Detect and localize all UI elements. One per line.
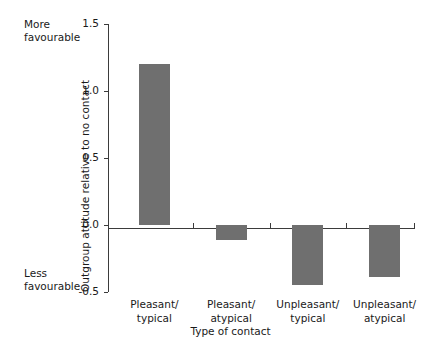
y-axis-tick: 0.0 [104,225,108,226]
y-axis-tick: -0.5 [104,292,108,293]
y-axis-tick: 1.0 [104,91,108,92]
y-axis-tick-label: -0.5 [79,285,100,297]
plot-area: 1.51.00.50.0-0.5 [108,24,415,292]
bar-chart: More favourable Less favourable Outgroup… [0,0,439,350]
x-axis-tick [346,223,347,228]
y-axis-tick: 1.5 [104,24,108,25]
x-axis-tick-end [414,223,415,228]
x-axis-tick [193,223,194,228]
x-axis-label: Type of contact [0,325,439,337]
y-axis-spine [108,24,109,292]
axis-anchor-more-favourable: More favourable [24,18,80,44]
y-axis-tick: 0.5 [104,158,108,159]
axis-anchor-less-favourable: Less favourable [24,267,80,293]
bar[interactable] [216,225,247,240]
y-axis-tick-label: 0.5 [82,151,99,163]
bar[interactable] [139,64,170,225]
bar[interactable] [292,225,323,285]
y-axis-tick-label: 1.5 [82,17,99,29]
x-axis-category-label: Unpleasant/ atypical [335,298,435,325]
x-axis-label-text: Type of contact [190,325,270,337]
y-axis-tick-label: 1.0 [82,84,99,96]
y-axis-tick-label: 0.0 [82,218,99,230]
bar[interactable] [369,225,400,277]
x-axis-tick [270,223,271,228]
